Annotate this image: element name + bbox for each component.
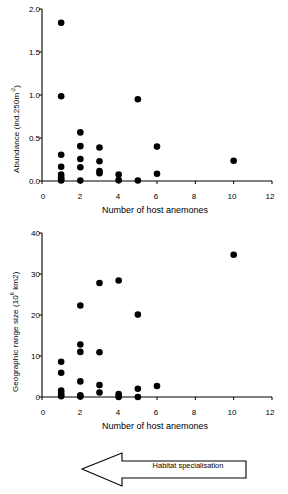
- data-point: [77, 143, 84, 150]
- abundance-xtick-12: 12: [262, 192, 278, 201]
- data-point: [58, 393, 65, 400]
- data-point: [135, 96, 142, 103]
- data-point: [58, 93, 65, 100]
- chart-abundance-panel: Abundance (ind.250m-2) 2.0 1.5 1.0 0.5 0…: [0, 0, 288, 218]
- range-ytick-30: 30: [16, 270, 40, 279]
- data-point: [135, 311, 142, 318]
- data-point: [77, 349, 84, 356]
- abundance-ytick-1-5: 1.5: [14, 48, 40, 57]
- data-point: [77, 393, 84, 400]
- abundance-xtick-4: 4: [110, 192, 126, 201]
- range-y-axis-label: Geographic range size (106 km2): [11, 272, 20, 392]
- figure-scatter-pair: Abundance (ind.250m-2) 2.0 1.5 1.0 0.5 0…: [0, 0, 288, 494]
- data-point: [154, 143, 161, 150]
- data-point: [58, 19, 65, 26]
- data-point: [154, 170, 161, 177]
- data-point: [77, 302, 84, 309]
- abundance-xtick-0: 0: [35, 192, 51, 201]
- abundance-y-axis-label-text: Abundance (ind.250m: [12, 93, 21, 173]
- data-point: [115, 177, 122, 184]
- data-point: [58, 177, 65, 184]
- range-y-axis-label-text: Geographic range size (10: [11, 295, 20, 392]
- abundance-x-axis-label: Number of host anemones: [40, 205, 270, 215]
- data-point: [77, 164, 84, 171]
- data-point: [115, 394, 122, 401]
- abundance-plot-svg: [0, 0, 288, 218]
- range-xtick-6: 6: [148, 408, 164, 417]
- range-y-axis-label-sup: 6: [9, 292, 15, 295]
- abundance-xtick-8: 8: [186, 192, 202, 201]
- abundance-xtick-10: 10: [224, 192, 240, 201]
- data-point: [230, 251, 237, 258]
- range-xtick-0: 0: [35, 408, 51, 417]
- data-point: [230, 157, 237, 164]
- data-point: [154, 383, 161, 390]
- data-point: [96, 382, 103, 389]
- data-point: [96, 144, 103, 151]
- data-point: [96, 280, 103, 287]
- data-point: [77, 156, 84, 163]
- habitat-specialisation-arrow: Habitat specialisation: [80, 450, 248, 488]
- data-point: [58, 151, 65, 158]
- data-point: [135, 386, 142, 393]
- range-ytick-10: 10: [16, 352, 40, 361]
- range-plot-svg: [0, 222, 288, 430]
- chart-range-size-panel: Geographic range size (106 km2) 40 30 20…: [0, 222, 288, 430]
- range-xtick-12: 12: [262, 408, 278, 417]
- data-point: [77, 129, 84, 136]
- data-point: [115, 277, 122, 284]
- data-point: [96, 389, 103, 396]
- data-point: [77, 378, 84, 385]
- abundance-ytick-2-0: 2.0: [14, 5, 40, 14]
- data-point: [77, 177, 84, 184]
- abundance-ytick-0-0: 0.0: [14, 177, 40, 186]
- abundance-ytick-0-5: 0.5: [14, 134, 40, 143]
- data-point: [96, 158, 103, 165]
- abundance-xtick-2: 2: [72, 192, 88, 201]
- abundance-y-axis-label-suffix: ): [12, 85, 21, 88]
- range-ytick-40: 40: [16, 229, 40, 238]
- data-point: [96, 170, 103, 177]
- range-x-axis-label: Number of host anemones: [40, 421, 270, 431]
- data-point: [77, 341, 84, 348]
- range-xtick-8: 8: [186, 408, 202, 417]
- range-xtick-2: 2: [72, 408, 88, 417]
- data-point: [58, 164, 65, 171]
- habitat-specialisation-arrow-label: Habitat specialisation: [132, 461, 244, 470]
- abundance-ytick-1-0: 1.0: [14, 91, 40, 100]
- range-ytick-0: 0: [16, 393, 40, 402]
- data-point: [58, 370, 65, 377]
- data-point: [135, 394, 142, 401]
- data-point: [135, 177, 142, 184]
- range-xtick-4: 4: [110, 408, 126, 417]
- data-point: [58, 358, 65, 365]
- range-xtick-10: 10: [224, 408, 240, 417]
- abundance-xtick-6: 6: [148, 192, 164, 201]
- data-point: [96, 349, 103, 356]
- range-ytick-20: 20: [16, 311, 40, 320]
